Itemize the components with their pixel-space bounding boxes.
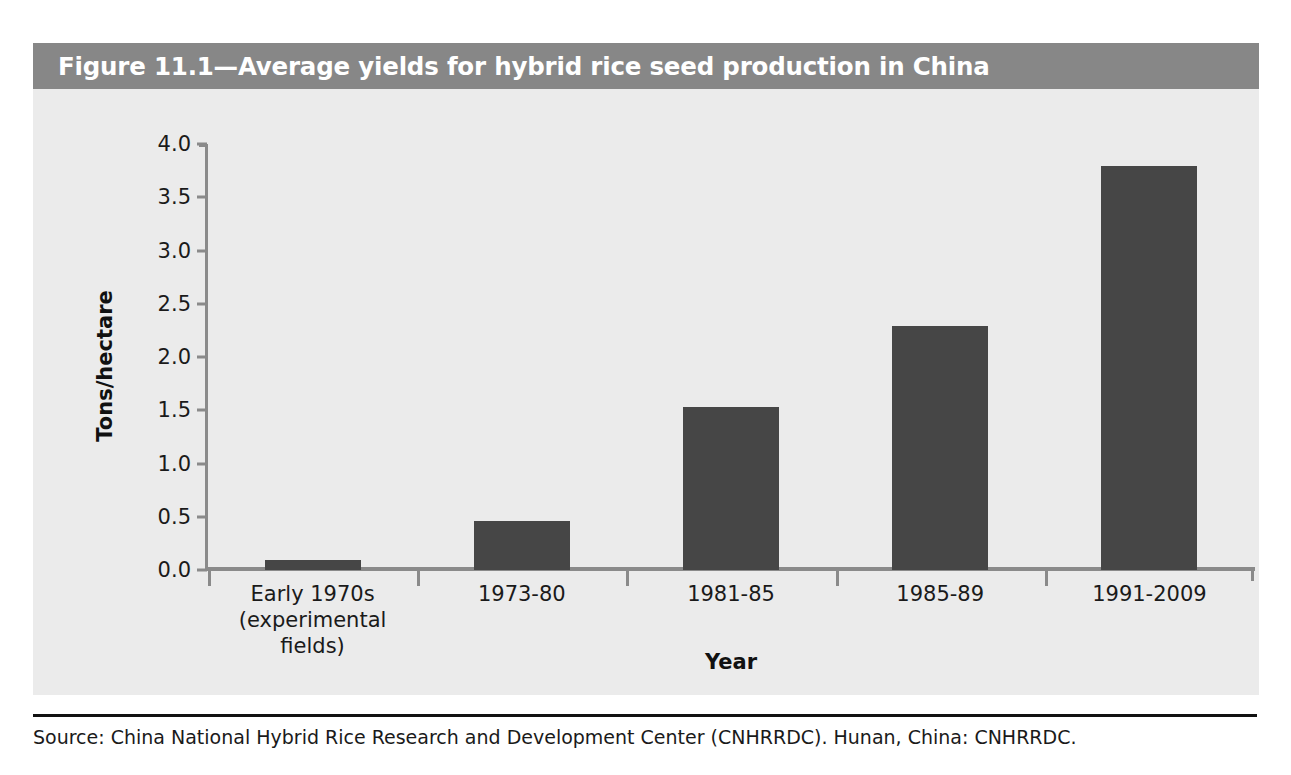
y-tick-mark — [197, 569, 207, 572]
y-axis-tick-labels: 0.00.51.01.52.02.53.03.54.0 — [133, 89, 191, 695]
y-tick-mark — [197, 356, 207, 359]
chart-panel: Tons/hectare 0.00.51.01.52.02.53.03.54.0… — [33, 89, 1259, 695]
bar[interactable] — [474, 521, 570, 570]
x-tick-mark — [208, 571, 211, 586]
x-tick-label-line: 1985-89 — [835, 581, 1045, 607]
y-tick-label: 3.5 — [133, 185, 191, 209]
figure-title: Figure 11.1—Average yields for hybrid ri… — [33, 52, 990, 81]
y-tick-mark — [197, 143, 207, 146]
y-tick-mark — [197, 515, 207, 518]
x-tick-label-line: 1991-2009 — [1044, 581, 1254, 607]
x-tick-mark — [626, 571, 629, 586]
y-tick-label: 3.0 — [133, 239, 191, 263]
bar-slot — [836, 144, 1045, 570]
bar[interactable] — [892, 326, 988, 570]
y-tick-mark — [197, 462, 207, 465]
bar[interactable] — [683, 407, 779, 570]
source-divider — [33, 714, 1257, 717]
x-tick-mark — [836, 571, 839, 586]
x-tick-label: 1973-80 — [417, 581, 627, 607]
y-tick-label: 1.5 — [133, 398, 191, 422]
bar-slot — [1045, 144, 1254, 570]
x-tick-label-line: Early 1970s — [208, 581, 418, 607]
bar-slot — [208, 144, 417, 570]
x-tick-label-line: 1973-80 — [417, 581, 627, 607]
y-tick-label: 0.0 — [133, 558, 191, 582]
figure-container: Figure 11.1—Average yields for hybrid ri… — [0, 0, 1291, 775]
x-tick-label: 1985-89 — [835, 581, 1045, 607]
x-tick-label-line: (experimental — [208, 607, 418, 633]
y-tick-label: 2.5 — [133, 292, 191, 316]
y-tick-label: 2.0 — [133, 345, 191, 369]
x-tick-label-line: 1981-85 — [626, 581, 836, 607]
y-axis-label: Tons/hectare — [93, 256, 117, 476]
y-tick-mark — [197, 196, 207, 199]
bar[interactable] — [1101, 166, 1197, 570]
x-tick-label: 1991-2009 — [1044, 581, 1254, 607]
figure-title-band: Figure 11.1—Average yields for hybrid ri… — [33, 43, 1259, 89]
bar[interactable] — [265, 560, 361, 570]
x-tick-label: 1981-85 — [626, 581, 836, 607]
y-tick-mark — [197, 249, 207, 252]
y-tick-mark — [197, 302, 207, 305]
y-tick-label: 1.0 — [133, 452, 191, 476]
x-tick-mark — [1045, 571, 1048, 586]
y-tick-label: 4.0 — [133, 132, 191, 156]
bars-layer — [208, 144, 1254, 570]
bar-slot — [417, 144, 626, 570]
x-tick-label: Early 1970s(experimentalfields) — [208, 581, 418, 659]
y-tick-mark — [197, 409, 207, 412]
x-axis-label: Year — [208, 650, 1254, 674]
y-tick-label: 0.5 — [133, 505, 191, 529]
bar-slot — [626, 144, 835, 570]
source-note: Source: China National Hybrid Rice Resea… — [33, 726, 1077, 748]
x-tick-mark — [417, 571, 420, 586]
